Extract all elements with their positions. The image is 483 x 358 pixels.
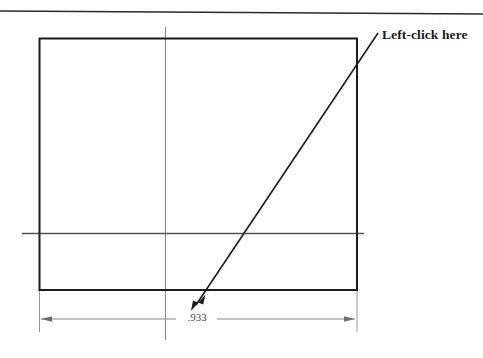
cad-drawing-figure: Left-click here .933 <box>0 0 483 358</box>
rectangle-profile <box>40 39 358 291</box>
drawing-canvas <box>0 0 483 358</box>
callout-arrowhead <box>191 295 206 312</box>
dimension-arrow-left <box>41 316 52 322</box>
callout-leader-line <box>196 33 378 305</box>
page-top-rule <box>0 11 483 14</box>
dimension-arrow-right <box>344 316 355 322</box>
callout-label: Left-click here <box>382 28 468 43</box>
dimension-value-label: .933 <box>175 311 219 323</box>
